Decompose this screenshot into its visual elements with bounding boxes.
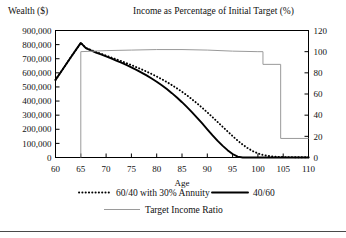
x-tick-label: 105	[276, 164, 290, 174]
series-line	[56, 43, 309, 157]
y2-tick-label: 0	[314, 153, 319, 163]
legend-label: 60/40 with 30% Annuity	[116, 188, 210, 198]
y2-tick-label: 120	[314, 26, 328, 36]
x-tick-label: 100	[251, 164, 265, 174]
y2-tick-label: 80	[314, 68, 324, 78]
x-tick-label: 85	[178, 164, 188, 174]
y-tick-label: 900,000	[22, 26, 52, 36]
series-line	[56, 43, 309, 158]
y-tick-label: 600,000	[22, 68, 52, 78]
x-tick-label: 75	[127, 164, 137, 174]
x-tick-label: 95	[228, 164, 238, 174]
chart-plot-area: 0100,000200,000300,000400,000500,000600,…	[0, 0, 346, 238]
chart-figure: Wealth ($) Income as Percentage of Initi…	[0, 0, 346, 238]
y-tick-label: 300,000	[22, 110, 52, 120]
y2-tick-label: 20	[314, 132, 324, 142]
legend-label: 40/60	[253, 188, 275, 198]
x-tick-label: 70	[102, 164, 112, 174]
y-tick-label: 700,000	[22, 54, 52, 64]
x-tick-label: 65	[76, 164, 86, 174]
y2-tick-label: 40	[314, 110, 324, 120]
x-tick-label: 80	[152, 164, 162, 174]
x-axis-label: Age	[175, 178, 190, 188]
x-tick-label: 110	[302, 164, 316, 174]
y-axis-right-ticks: 020406080100120	[305, 26, 328, 163]
x-tick-label: 90	[203, 164, 213, 174]
y2-tick-label: 60	[314, 89, 324, 99]
chart-legend: 60/40 with 30% Annuity40/60Target Income…	[79, 188, 275, 215]
series-group	[56, 43, 309, 158]
series-line	[81, 50, 309, 158]
y-tick-label: 400,000	[22, 96, 52, 106]
y-tick-label: 100,000	[22, 139, 52, 149]
y-tick-label: 0	[47, 153, 52, 163]
y-tick-label: 200,000	[22, 124, 52, 134]
legend-label: Target Income Ratio	[145, 205, 223, 215]
y-tick-label: 800,000	[22, 40, 52, 50]
footer-divider	[0, 231, 346, 232]
x-tick-label: 60	[51, 164, 61, 174]
y-axis-left-ticks: 0100,000200,000300,000400,000500,000600,…	[22, 26, 59, 163]
y2-tick-label: 100	[314, 47, 328, 57]
y-tick-label: 500,000	[22, 82, 52, 92]
